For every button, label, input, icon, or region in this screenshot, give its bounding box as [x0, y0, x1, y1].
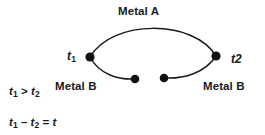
metal-b-arc-left [90, 57, 135, 79]
metal-b-right-label: Metal B [203, 81, 245, 93]
inequality-rhs-subscript: 2 [35, 89, 40, 99]
difference-a-subscript: 1 [13, 120, 18, 130]
terminal-left-dot [131, 75, 140, 84]
junction-left-subscript: 1 [71, 54, 76, 64]
junction-left-dot [85, 52, 94, 61]
inequality-operator: > [21, 85, 28, 97]
difference-equals: = [43, 116, 50, 128]
difference-b: t [31, 116, 35, 128]
difference-b-subscript: 2 [35, 120, 40, 130]
difference-minus: – [21, 116, 28, 128]
terminal-right-dot [160, 74, 169, 83]
metal-a-label: Metal A [118, 6, 159, 18]
formula-difference: t1–t2=t [9, 117, 57, 129]
metal-a-arc [90, 28, 216, 57]
formula-inequality: t1>t2 [9, 86, 40, 98]
metal-b-arc-right [164, 56, 216, 78]
difference-result: t [52, 116, 56, 128]
junction-left-label: t1 [67, 50, 76, 62]
diagram-canvas: Metal A t1 t2 Metal B Metal B t1>t2 t1–t… [0, 0, 265, 135]
thermocouple-diagram [0, 0, 265, 135]
junction-right-dot [211, 51, 220, 60]
metal-b-left-label: Metal B [55, 81, 97, 93]
junction-right-label: t2 [231, 53, 242, 65]
inequality-lhs-subscript: 1 [13, 89, 18, 99]
